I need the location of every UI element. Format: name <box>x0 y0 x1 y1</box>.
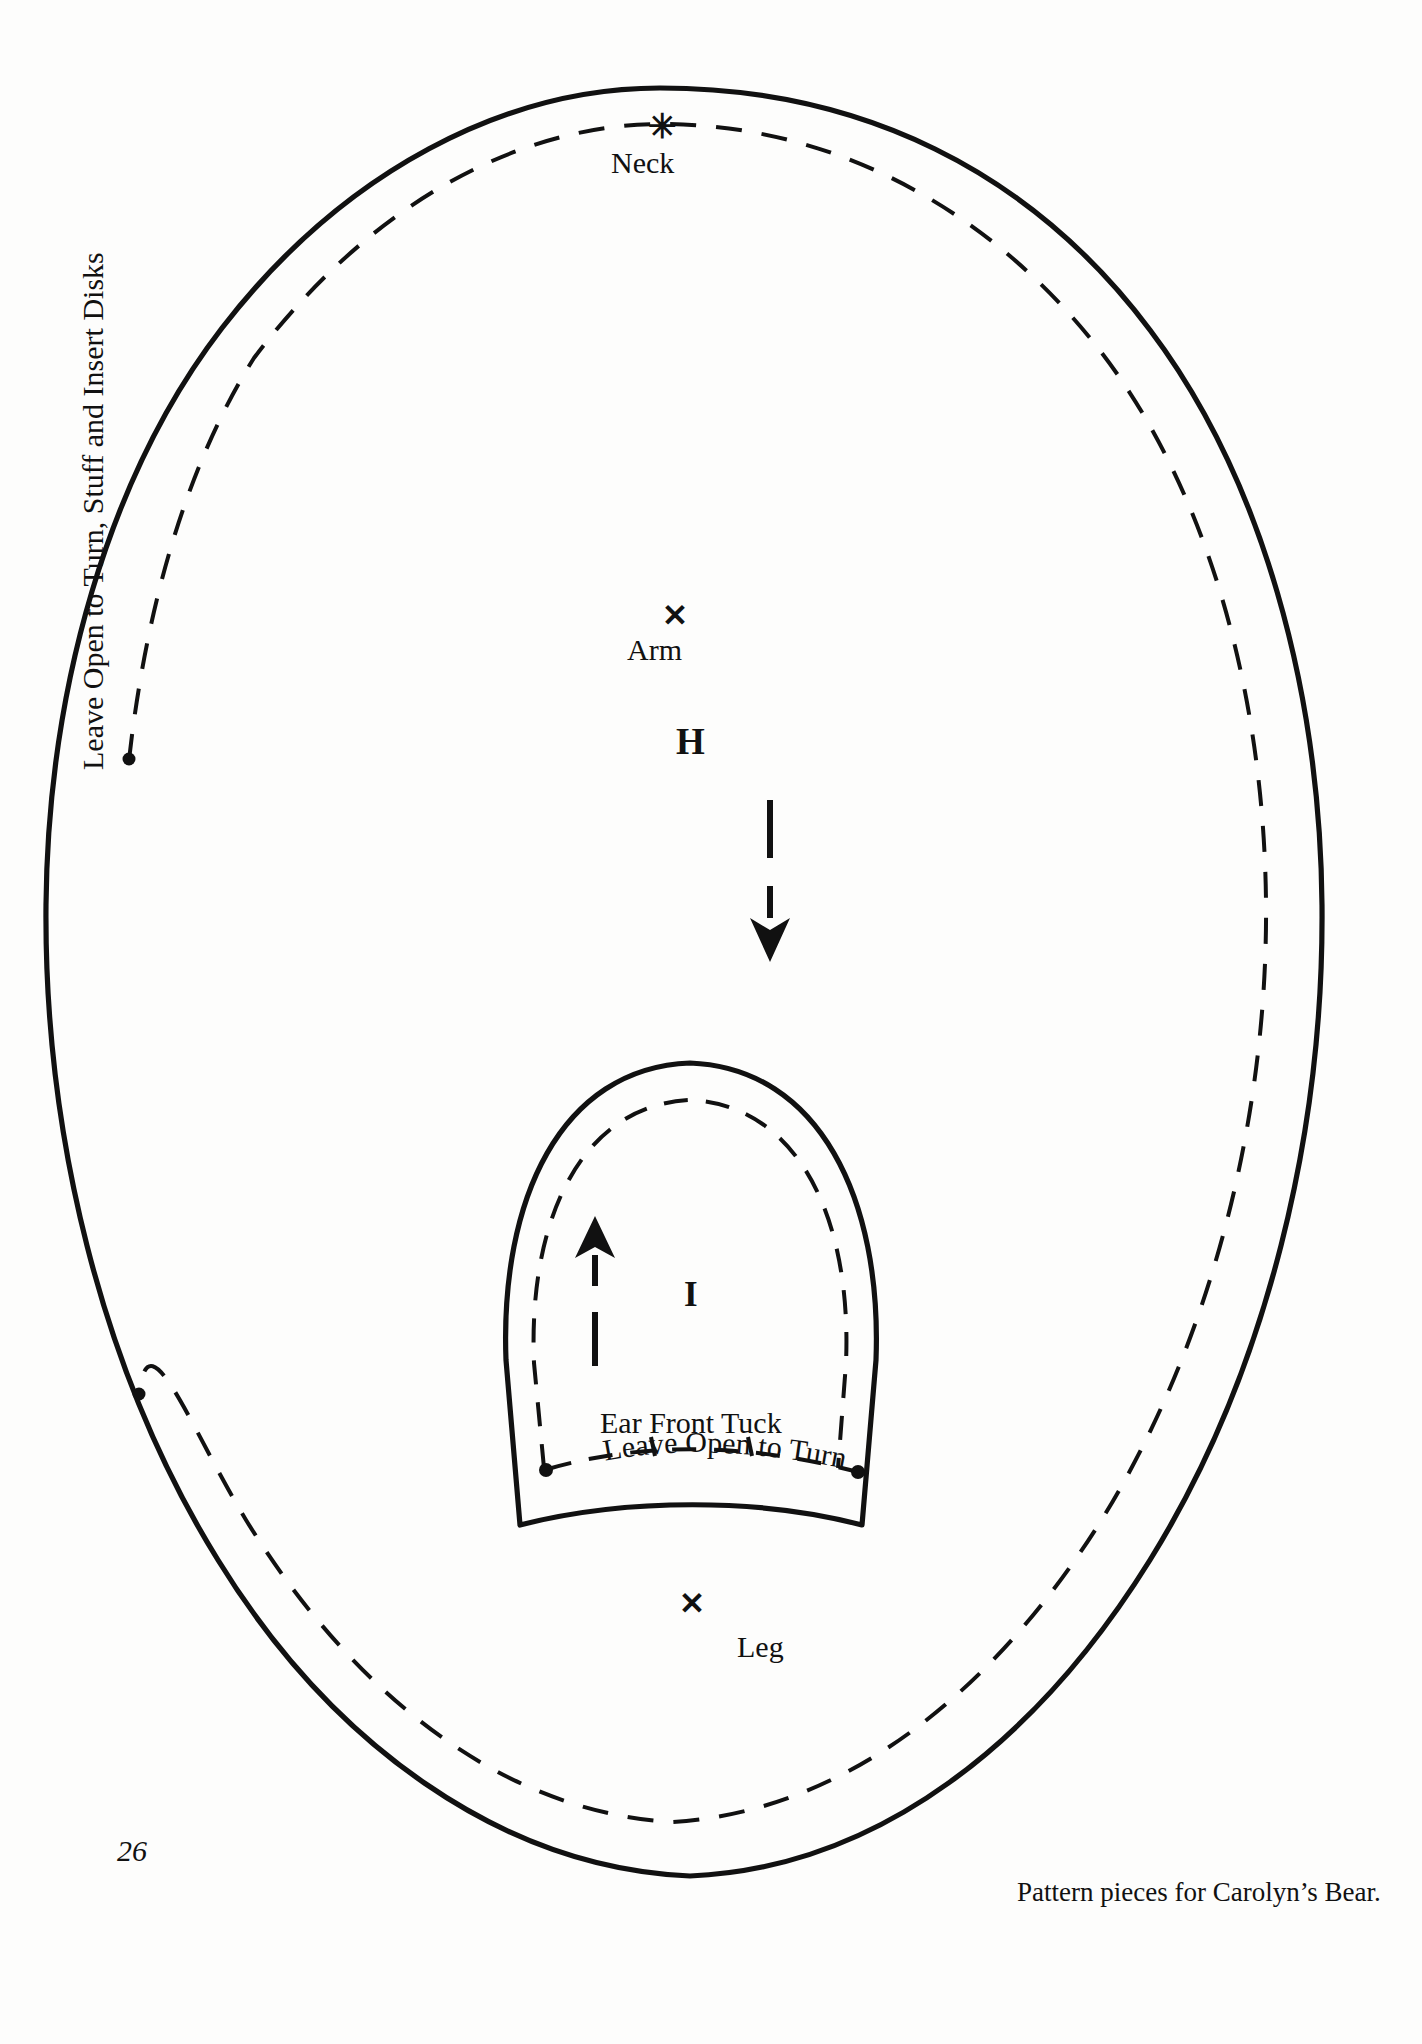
body-grain-arrow-head <box>750 918 790 962</box>
body-opening-dot-bottom <box>133 1388 146 1401</box>
neck-label: Neck <box>611 148 674 178</box>
ear-opening-dot-right <box>851 1465 865 1479</box>
pattern-page: Leave Open to Turn ✳ ✕ ✕ Neck Arm H I Ea… <box>0 0 1422 2044</box>
page-caption: Pattern pieces for Carolyn’s Bear. <box>1017 1879 1381 1906</box>
ear-grain-arrow-head <box>575 1216 615 1258</box>
arm-label: Arm <box>627 635 682 665</box>
leg-label: Leg <box>737 1632 784 1662</box>
pattern-drawing: Leave Open to Turn <box>0 0 1422 2044</box>
ear-opening-dot-left <box>539 1463 553 1477</box>
piece-letter-i: I <box>684 1277 698 1312</box>
leg-x-mark: ✕ <box>679 1588 705 1619</box>
piece-letter-h: H <box>676 723 705 760</box>
body-side-instruction-label: Leave Open to Turn, Stuff and Insert Dis… <box>78 252 108 770</box>
body-opening-dot-top <box>123 753 136 766</box>
body-stitch-line <box>129 124 1266 1822</box>
arm-x-mark: ✕ <box>662 600 688 631</box>
page-number: 26 <box>117 1836 147 1866</box>
ear-front-tuck-label: Ear Front Tuck <box>600 1408 782 1438</box>
neck-x-mark: ✳ <box>648 110 676 144</box>
